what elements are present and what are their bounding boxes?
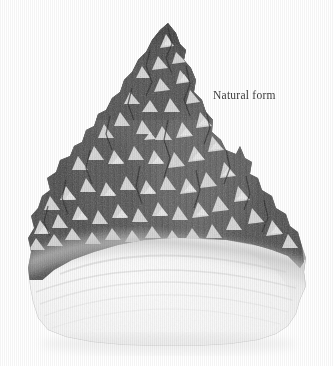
specimen-body xyxy=(0,0,333,366)
specimen-plate: Natural form xyxy=(0,0,333,366)
crystal-specimen-illustration xyxy=(0,0,333,366)
specimen-shadow xyxy=(40,334,296,354)
crystal-specimen-figure xyxy=(0,0,333,366)
annotation-natural-form: Natural form xyxy=(213,88,276,102)
